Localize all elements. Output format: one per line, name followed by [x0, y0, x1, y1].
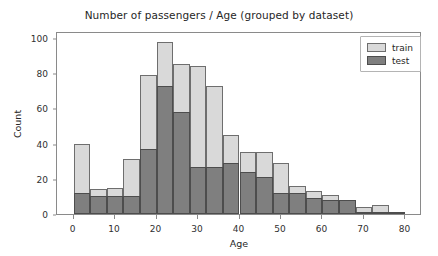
chart-legend[interactable]: train test: [360, 36, 421, 72]
x-tick-mark-60: [321, 215, 322, 219]
legend-label-train: train: [392, 43, 413, 53]
bar-test-bin-4: [90, 196, 107, 214]
bar-test-bin-16: [140, 149, 157, 214]
bar-test-bin-8: [107, 196, 124, 214]
x-tick-label-40: 40: [233, 224, 244, 234]
legend-swatch-test-icon: [367, 56, 386, 65]
bar-test-bin-36: [223, 163, 240, 214]
x-tick-mark-30: [197, 215, 198, 219]
bar-test-bin-20: [157, 86, 174, 214]
y-tick-label-0: 0: [42, 210, 48, 220]
y-tick-label-60: 60: [37, 104, 48, 114]
bar-test-bin-0: [74, 193, 91, 214]
bar-test-bin-52: [289, 193, 306, 214]
x-tick-mark-0: [73, 215, 74, 219]
bar-test-bin-76: [389, 212, 406, 214]
bar-test-bin-60: [322, 200, 339, 214]
x-tick-label-60: 60: [316, 224, 327, 234]
bar-test-bin-28: [190, 167, 207, 215]
y-tick-label-80: 80: [37, 69, 48, 79]
x-axis: Age 01020304050607080: [56, 215, 422, 255]
y-axis-label: Count: [12, 74, 23, 174]
x-tick-label-70: 70: [357, 224, 368, 234]
x-tick-mark-80: [404, 215, 405, 219]
x-tick-mark-50: [280, 215, 281, 219]
legend-swatch-train-icon: [367, 43, 386, 52]
bar-test-bin-40: [240, 172, 257, 214]
y-tick-label-20: 20: [37, 175, 48, 185]
y-axis: Count 020406080100: [0, 32, 56, 216]
x-tick-label-50: 50: [274, 224, 285, 234]
x-tick-label-20: 20: [150, 224, 161, 234]
chart-title: Number of passengers / Age (grouped by d…: [0, 9, 438, 21]
legend-label-test: test: [392, 56, 409, 66]
x-tick-mark-70: [363, 215, 364, 219]
x-tick-label-0: 0: [70, 224, 76, 234]
legend-item-test: test: [367, 54, 413, 67]
bar-test-bin-48: [273, 193, 290, 214]
bar-test-bin-64: [339, 200, 356, 214]
x-tick-mark-40: [239, 215, 240, 219]
x-tick-label-10: 10: [108, 224, 119, 234]
x-axis-label: Age: [56, 238, 422, 249]
bar-test-bin-68: [356, 212, 373, 214]
bar-test-bin-32: [206, 167, 223, 215]
chart-figure: Number of passengers / Age (grouped by d…: [0, 0, 438, 256]
bar-test-bin-56: [306, 198, 323, 214]
x-tick-label-80: 80: [399, 224, 410, 234]
legend-item-train: train: [367, 41, 413, 54]
bar-test-bin-72: [372, 212, 389, 214]
bar-test-bin-12: [123, 196, 140, 214]
bar-test-bin-44: [256, 177, 273, 214]
x-tick-mark-20: [156, 215, 157, 219]
x-tick-label-30: 30: [191, 224, 202, 234]
y-tick-label-100: 100: [31, 34, 48, 44]
x-tick-mark-10: [114, 215, 115, 219]
y-tick-label-40: 40: [37, 140, 48, 150]
bar-test-bin-24: [173, 112, 190, 214]
